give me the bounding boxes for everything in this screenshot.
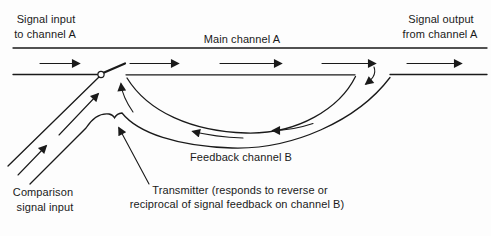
feedback-channel-diagram: Signal input to channel A Main channel A… xyxy=(0,0,491,236)
signal-input-label-line1: Signal input xyxy=(17,13,76,25)
feedback-into-transmitter-arrow-icon xyxy=(121,84,133,112)
comparison-flow-arrow-upper-icon xyxy=(59,94,98,135)
comparison-label-line1: Comparison xyxy=(13,186,73,198)
comparison-right-boundary-and-feedback-lower-boundary xyxy=(30,78,390,185)
transmitter-leader-arrow-icon xyxy=(119,128,149,184)
divert-to-feedback-arrow-icon xyxy=(366,67,375,84)
transmitter-label-line2: reciprocal of signal feedback on channel… xyxy=(130,198,345,210)
transmitter-lever xyxy=(103,64,125,74)
feedback-channel-upper-boundary xyxy=(127,77,356,134)
signal-output-label-line2: from channel A xyxy=(403,28,478,40)
signal-input-label-line2: to channel A xyxy=(14,28,76,40)
comparison-flow-arrow-lower-icon xyxy=(18,146,46,175)
signal-output-label-line1: Signal output xyxy=(408,13,474,25)
diagram-canvas: Signal input to channel A Main channel A… xyxy=(0,0,491,236)
main-channel-label: Main channel A xyxy=(204,33,281,45)
transmitter-label-line1: Transmitter (responds to reverse or xyxy=(152,184,328,196)
feedback-channel-label: Feedback channel B xyxy=(190,151,292,163)
comparison-label-line2: signal input xyxy=(17,201,74,213)
comparison-left-boundary xyxy=(8,77,99,166)
